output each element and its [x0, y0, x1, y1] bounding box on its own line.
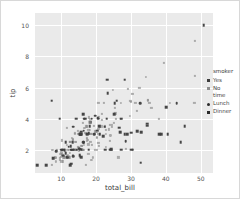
data-point — [134, 102, 136, 104]
data-point — [72, 137, 74, 139]
legend-item[interactable]: Yes — [204, 77, 240, 85]
data-point — [88, 125, 91, 128]
data-point — [50, 164, 52, 166]
data-point — [101, 113, 103, 115]
legend-item[interactable]: Dinner — [204, 108, 240, 116]
data-point — [124, 140, 127, 143]
data-point — [145, 76, 147, 78]
data-point — [55, 160, 57, 162]
data-point — [94, 149, 96, 151]
x-tick-label: 30 — [127, 175, 135, 182]
data-point — [103, 102, 105, 104]
legend-marker-icon — [204, 111, 213, 114]
data-point — [89, 129, 91, 131]
data-point — [97, 117, 100, 120]
data-point — [106, 78, 109, 81]
data-point — [138, 86, 140, 88]
data-point — [82, 149, 84, 151]
data-point — [106, 117, 109, 120]
data-point — [86, 133, 89, 136]
data-point — [111, 126, 113, 128]
data-point — [111, 89, 113, 91]
data-point — [165, 106, 168, 109]
x-tick-label: 40 — [162, 175, 170, 182]
data-point — [115, 99, 118, 102]
data-point — [194, 75, 196, 77]
data-point — [85, 137, 87, 139]
data-point — [130, 131, 133, 134]
data-point — [82, 113, 85, 116]
data-point — [131, 93, 133, 95]
data-points-layer — [35, 13, 213, 173]
y-tick-label: 8 — [25, 53, 29, 60]
x-axis-label: total_bill — [1, 184, 239, 192]
legend-group-title: time — [204, 93, 240, 99]
data-point — [129, 114, 131, 116]
y-tick-label: 6 — [25, 84, 29, 91]
data-point — [51, 149, 53, 151]
data-point — [69, 152, 71, 154]
data-point — [70, 148, 73, 151]
data-point — [66, 127, 68, 129]
legend-marker-icon — [204, 79, 213, 82]
data-point — [117, 156, 119, 158]
data-point — [91, 133, 93, 135]
data-point — [90, 144, 92, 146]
data-point — [193, 102, 195, 104]
data-point — [72, 125, 75, 128]
data-point — [169, 102, 171, 104]
data-point — [74, 133, 76, 135]
data-point — [120, 102, 122, 104]
data-point — [52, 157, 55, 160]
legend-item-label: Yes — [213, 78, 222, 84]
data-point — [61, 139, 63, 141]
data-point — [123, 78, 126, 81]
y-tick-label: 2 — [25, 146, 29, 153]
data-point — [120, 148, 123, 151]
legend-item-label: No — [213, 86, 220, 92]
data-point — [167, 133, 170, 136]
data-point — [113, 107, 115, 109]
data-point — [80, 156, 83, 159]
data-point — [87, 148, 90, 151]
data-point — [130, 148, 133, 151]
data-point — [113, 102, 116, 105]
data-point — [105, 129, 107, 131]
data-point — [75, 117, 78, 120]
data-point — [183, 125, 186, 128]
data-point — [58, 117, 61, 120]
data-point — [82, 129, 85, 132]
x-tick-label: 10 — [57, 175, 65, 182]
scatter-plot-figure: 246810 1020304050 total_bill tip smokerY… — [0, 0, 240, 199]
data-point — [77, 129, 79, 131]
data-point — [93, 125, 95, 127]
data-point — [55, 150, 58, 153]
data-point — [36, 164, 39, 167]
data-point — [90, 117, 93, 120]
legend-marker-icon — [204, 103, 213, 106]
data-point — [90, 159, 92, 161]
x-tick-label: 20 — [92, 175, 100, 182]
data-point — [146, 122, 149, 125]
data-point — [194, 40, 196, 42]
data-point — [100, 125, 102, 127]
data-point — [98, 145, 100, 147]
data-point — [158, 118, 160, 120]
data-point — [89, 121, 91, 123]
data-point — [63, 157, 65, 159]
data-point — [127, 88, 129, 90]
data-point — [79, 133, 82, 136]
data-point — [82, 122, 84, 124]
data-point — [84, 164, 86, 166]
data-point — [148, 102, 150, 104]
legend-item[interactable]: Lunch — [204, 100, 240, 108]
data-point — [106, 92, 109, 95]
data-point — [89, 141, 91, 143]
data-point — [82, 141, 85, 144]
data-point — [77, 145, 79, 147]
data-point — [98, 125, 101, 128]
data-point — [163, 62, 165, 64]
data-point — [74, 141, 76, 143]
data-point — [65, 156, 68, 159]
data-point — [129, 100, 131, 102]
